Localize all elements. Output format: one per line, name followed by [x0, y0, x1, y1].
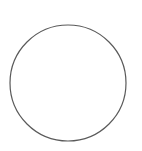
diagram-canvas — [0, 0, 142, 151]
diagram-svg — [0, 0, 142, 151]
circle-outline — [10, 25, 126, 141]
